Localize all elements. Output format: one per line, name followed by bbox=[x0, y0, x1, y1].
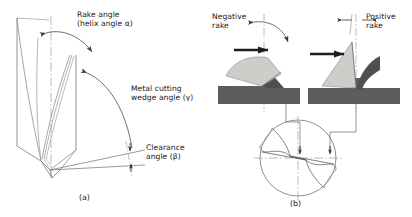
rake-angle-line2: (helix angle α) bbox=[77, 19, 133, 28]
clearance-angle-line1: Clearance bbox=[146, 143, 185, 152]
clearance-angle-line2: angle (β) bbox=[146, 152, 185, 161]
panel-a-caption: (a) bbox=[79, 193, 90, 202]
wedge-angle-label: Metal cutting wedge angle (γ) bbox=[131, 84, 193, 103]
drill-geometry-figure bbox=[0, 0, 412, 217]
wedge-angle-line1: Metal cutting bbox=[131, 84, 193, 93]
positive-rake-line2: rake bbox=[366, 21, 396, 30]
rake-angle-label: Rake angle (helix angle α) bbox=[77, 10, 133, 29]
clearance-angle-label: Clearance angle (β) bbox=[146, 143, 185, 162]
rake-angle-line1: Rake angle bbox=[77, 10, 133, 19]
positive-rake-label: Positive rake bbox=[366, 12, 396, 31]
negative-rake-line1: Negative bbox=[212, 12, 246, 21]
positive-rake-line1: Positive bbox=[366, 12, 396, 21]
negative-rake-line2: rake bbox=[212, 21, 246, 30]
wedge-angle-line2: wedge angle (γ) bbox=[131, 93, 193, 102]
panel-b-caption: (b) bbox=[290, 199, 301, 208]
negative-rake-label: Negative rake bbox=[212, 12, 246, 31]
